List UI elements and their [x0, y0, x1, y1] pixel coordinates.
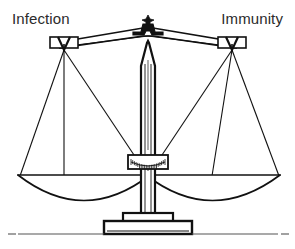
base-lower-plinth [104, 221, 192, 234]
left-label-infection: Infection [12, 10, 70, 27]
right-label-immunity: Immunity [221, 10, 283, 27]
center-column [141, 41, 155, 214]
balance-scale-figure: Infection Immunity [0, 0, 295, 249]
graduated-scale-plate [128, 155, 168, 171]
balance-scale-drawing: Infection Immunity [0, 0, 295, 249]
